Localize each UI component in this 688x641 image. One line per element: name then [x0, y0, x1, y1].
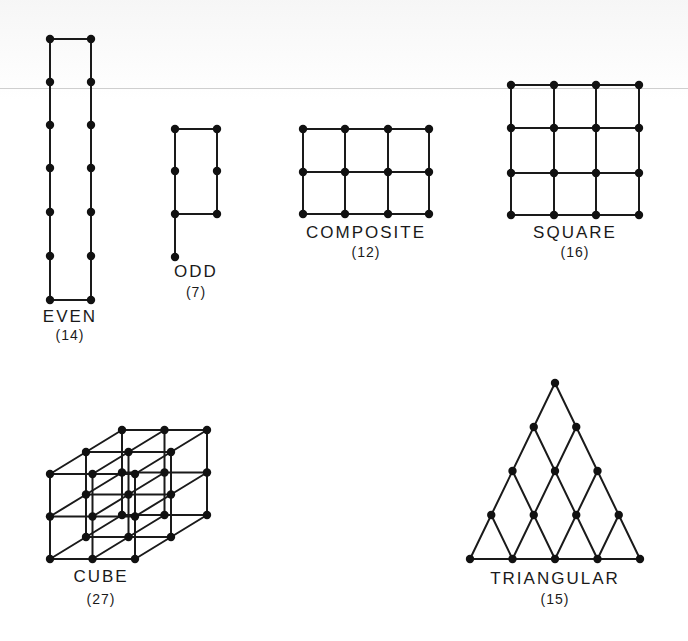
dot-point — [88, 512, 96, 520]
dot-point — [160, 511, 168, 519]
dot-point — [87, 121, 95, 129]
dot-point — [299, 125, 307, 133]
dot-point — [124, 448, 132, 456]
dot-point — [550, 81, 558, 89]
composite-number-figure — [299, 125, 433, 218]
dot-point — [46, 296, 54, 304]
dot-point — [551, 555, 559, 563]
lattice-edge — [491, 515, 512, 559]
lattice-edge — [50, 452, 86, 474]
dot-point — [171, 167, 179, 175]
even-count: (14) — [56, 327, 85, 343]
dot-point — [341, 125, 349, 133]
composite-count: (12) — [352, 244, 381, 260]
dot-point — [203, 511, 211, 519]
dot-point — [167, 490, 175, 498]
dot-point — [124, 533, 132, 541]
dot-point — [592, 211, 600, 219]
dot-point — [124, 490, 132, 498]
composite-label: COMPOSITE — [306, 223, 426, 242]
dot-point — [131, 555, 139, 563]
dot-point — [550, 124, 558, 132]
dot-point — [167, 533, 175, 541]
lattice-edge — [171, 430, 207, 452]
dot-point — [87, 296, 95, 304]
dot-point — [425, 210, 433, 218]
dot-point — [615, 511, 623, 519]
dot-point — [530, 423, 538, 431]
dot-point — [87, 252, 95, 260]
dot-point — [46, 35, 54, 43]
dot-point — [593, 467, 601, 475]
dot-point — [507, 211, 515, 219]
odd-count: (7) — [186, 284, 206, 300]
dot-point — [82, 448, 90, 456]
dot-point — [167, 448, 175, 456]
cube-count: (27) — [87, 591, 116, 607]
dot-point — [425, 125, 433, 133]
lattice-edge — [598, 515, 619, 559]
dot-point — [46, 121, 54, 129]
dot-point — [530, 511, 538, 519]
dot-point — [635, 81, 643, 89]
dot-point — [341, 210, 349, 218]
lattice-edge — [171, 473, 207, 495]
dot-point — [341, 168, 349, 176]
figurate-numbers-diagram — [0, 0, 688, 641]
dot-point — [384, 125, 392, 133]
dot-point — [299, 168, 307, 176]
dot-point — [507, 124, 515, 132]
dot-point — [88, 470, 96, 478]
dot-point — [87, 78, 95, 86]
cube-label: CUBE — [73, 567, 128, 586]
dot-point — [466, 555, 474, 563]
dot-point — [635, 124, 643, 132]
dot-point — [550, 211, 558, 219]
dot-point — [87, 164, 95, 172]
dot-point — [384, 210, 392, 218]
dot-point — [46, 555, 54, 563]
dot-point — [213, 125, 221, 133]
odd-number-figure — [171, 125, 221, 261]
dot-point — [160, 426, 168, 434]
dot-point — [203, 468, 211, 476]
dot-point — [550, 169, 558, 177]
even-number-figure — [46, 35, 95, 304]
dot-point — [551, 379, 559, 387]
dot-point — [46, 164, 54, 172]
dot-point — [425, 168, 433, 176]
triangular-label: TRIANGULAR — [490, 569, 620, 588]
dot-point — [82, 533, 90, 541]
dot-point — [88, 555, 96, 563]
dot-point — [507, 81, 515, 89]
dot-point — [213, 210, 221, 218]
dot-point — [87, 208, 95, 216]
dot-point — [203, 426, 211, 434]
dot-point — [593, 555, 601, 563]
even-label: EVEN — [43, 307, 97, 326]
dot-point — [551, 467, 559, 475]
dot-point — [636, 555, 644, 563]
dot-point — [572, 511, 580, 519]
triangular-number-figure — [466, 379, 644, 563]
dot-point — [213, 167, 221, 175]
dot-point — [171, 210, 179, 218]
dot-point — [46, 252, 54, 260]
square-count: (16) — [561, 244, 590, 260]
lattice-edge — [50, 495, 86, 517]
dot-point — [82, 490, 90, 498]
dot-point — [46, 78, 54, 86]
dot-point — [118, 426, 126, 434]
dot-point — [171, 253, 179, 261]
dot-point — [171, 125, 179, 133]
square-number-figure — [507, 81, 643, 219]
dot-point — [46, 208, 54, 216]
odd-label: ODD — [174, 262, 218, 281]
dot-point — [592, 81, 600, 89]
dot-point — [508, 467, 516, 475]
dot-point — [160, 468, 168, 476]
lattice-edge — [86, 430, 122, 452]
dot-point — [635, 211, 643, 219]
dot-point — [592, 169, 600, 177]
dot-point — [131, 512, 139, 520]
